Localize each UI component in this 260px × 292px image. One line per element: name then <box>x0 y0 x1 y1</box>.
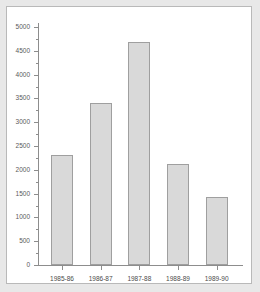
category-label-1985-86: 1985-86 <box>42 274 82 283</box>
category-label-1986-87: 1986-87 <box>81 274 121 283</box>
y-tick-500: 500 <box>34 241 38 242</box>
y-tick-3500: 3500 <box>34 98 38 99</box>
x-tick-1988-89 <box>178 266 179 270</box>
y-minor-tick <box>36 182 38 183</box>
y-tick-0: 0 <box>34 265 38 266</box>
x-tick-1986-87 <box>101 266 102 270</box>
bar-1987-88 <box>128 42 150 265</box>
y-tick-label: 1000 <box>16 212 30 221</box>
category-label-1988-89: 1988-89 <box>158 274 198 283</box>
y-tick-2500: 2500 <box>34 146 38 147</box>
y-minor-tick <box>36 110 38 111</box>
y-minor-tick <box>36 206 38 207</box>
bar-1985-86 <box>51 155 73 265</box>
bar-1989-90 <box>206 197 228 265</box>
x-tick-1987-88 <box>139 266 140 270</box>
y-tick-label: 4000 <box>16 70 30 79</box>
y-tick-1500: 1500 <box>34 194 38 195</box>
y-tick-label: 3500 <box>16 93 30 102</box>
y-tick-5000: 5000 <box>34 27 38 28</box>
y-minor-tick <box>36 87 38 88</box>
y-tick-4000: 4000 <box>34 75 38 76</box>
bar-1986-87 <box>90 103 112 265</box>
category-label-1989-90: 1989-90 <box>197 274 237 283</box>
y-tick-2000: 2000 <box>34 170 38 171</box>
y-minor-tick <box>36 253 38 254</box>
y-axis-line <box>38 23 39 265</box>
y-minor-tick <box>36 158 38 159</box>
y-tick-label: 3000 <box>16 117 30 126</box>
y-minor-tick <box>36 134 38 135</box>
y-tick-label: 2000 <box>16 165 30 174</box>
y-tick-label: 4500 <box>16 46 30 55</box>
chart-figure: 0500100015002000250030003500400045005000… <box>6 6 252 284</box>
y-tick-3000: 3000 <box>34 122 38 123</box>
y-tick-label: 500 <box>19 236 30 245</box>
x-tick-1985-86 <box>62 266 63 270</box>
y-minor-tick <box>36 229 38 230</box>
y-tick-label: 5000 <box>16 22 30 31</box>
y-tick-label: 2500 <box>16 141 30 150</box>
category-label-1987-88: 1987-88 <box>119 274 159 283</box>
bar-1988-89 <box>167 164 189 265</box>
x-tick-1989-90 <box>217 266 218 270</box>
y-minor-tick <box>36 63 38 64</box>
y-minor-tick <box>36 39 38 40</box>
y-tick-4500: 4500 <box>34 51 38 52</box>
y-tick-label: 0 <box>26 260 30 269</box>
y-tick-label: 1500 <box>16 189 30 198</box>
y-tick-1000: 1000 <box>34 217 38 218</box>
plot-area: 0500100015002000250030003500400045005000… <box>38 27 243 265</box>
x-axis-line <box>38 265 243 266</box>
